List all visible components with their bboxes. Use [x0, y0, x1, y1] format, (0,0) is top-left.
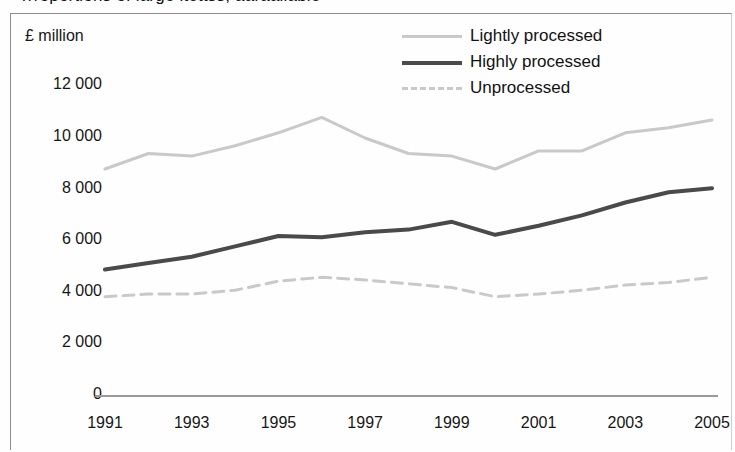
series-line-unprocessed	[105, 277, 712, 296]
chart-plot-area	[0, 0, 735, 452]
series-line-highly-processed	[105, 188, 712, 269]
scanned-page: rrroportions of large ltettss, aaraailab…	[0, 0, 735, 452]
series-line-lightly-processed	[105, 117, 712, 169]
